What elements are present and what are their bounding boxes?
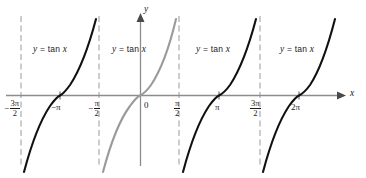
tick-pi-over-2: π2 (174, 99, 180, 118)
branch-label-1: y = tan x (33, 44, 67, 54)
branch-label-2: y = tan x (112, 44, 146, 54)
tick-3pi-over-2: 3π2 (250, 99, 261, 118)
tangent-plot-svg (0, 0, 366, 178)
axes-group (6, 13, 346, 166)
tick-neg-pi-over-2: −π2 (88, 99, 100, 118)
tick-neg-3pi-over-2: −3π2 (4, 99, 20, 118)
y-axis-label: y (144, 4, 148, 14)
tick-pi: π (215, 103, 220, 112)
branch-label-4: y = tan x (280, 44, 314, 54)
x-axis-arrow (337, 92, 346, 100)
y-axis-arrow (137, 13, 145, 22)
tick-2pi: 2π (291, 103, 300, 112)
x-axis-label: x (350, 88, 354, 98)
tick-zero: 0 (144, 101, 149, 110)
tick-neg-pi: −π (51, 103, 61, 112)
branch-label-3: y = tan x (196, 44, 230, 54)
tangent-graph-figure: x y y = tan x y = tan x y = tan x y = ta… (0, 0, 366, 178)
